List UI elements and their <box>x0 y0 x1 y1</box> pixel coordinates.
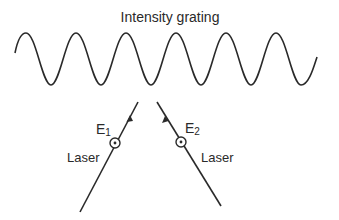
diagram-title: Intensity grating <box>121 9 220 25</box>
arrow-up-icon <box>127 115 134 122</box>
field-label-1: E1 <box>96 121 111 138</box>
laser-label-1: Laser <box>67 150 100 165</box>
laser-beam-1: E1 Laser <box>67 102 138 212</box>
field-label-2: E2 <box>185 120 200 137</box>
intensity-grating-wave <box>15 33 317 85</box>
grating-diagram: Intensity grating E1 Laser E2 Laser <box>0 0 339 220</box>
laser-beam-2: E2 Laser <box>157 102 234 206</box>
laser-label-2: Laser <box>201 150 234 165</box>
